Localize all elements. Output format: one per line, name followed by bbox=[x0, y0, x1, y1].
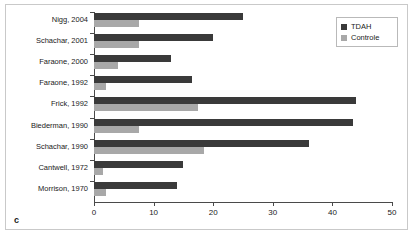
x-tick-mark bbox=[154, 202, 155, 206]
bar-row: Frick, 1992 bbox=[94, 96, 392, 117]
figure-panel-c: 01020304050 Nigg, 2004Schachar, 2001Fara… bbox=[0, 0, 413, 235]
category-label: Frick, 1992 bbox=[51, 98, 88, 110]
category-label: Faraone, 1992 bbox=[39, 77, 88, 89]
x-tick-label: 10 bbox=[149, 208, 158, 217]
bar-row: Faraone, 2000 bbox=[94, 54, 392, 75]
x-axis-line bbox=[94, 202, 392, 203]
bar-controle bbox=[94, 83, 106, 90]
bar-tdah bbox=[94, 13, 243, 20]
category-label: Morrison, 1970 bbox=[38, 183, 88, 195]
bar-row: Morrison, 1970 bbox=[94, 181, 392, 202]
x-tick-label: 0 bbox=[92, 208, 96, 217]
bar-controle bbox=[94, 189, 106, 196]
panel-label: c bbox=[14, 215, 19, 225]
bar-row: Faraone, 1992 bbox=[94, 75, 392, 96]
legend-swatch-tdah bbox=[341, 24, 347, 30]
bar-row: Cantwell, 1972 bbox=[94, 160, 392, 181]
bar-controle bbox=[94, 126, 139, 133]
bar-controle bbox=[94, 20, 139, 27]
x-tick-label: 20 bbox=[209, 208, 218, 217]
bar-tdah bbox=[94, 55, 171, 62]
category-label: Faraone, 2000 bbox=[39, 56, 88, 68]
legend-label-controle: Controle bbox=[351, 33, 379, 42]
x-tick-label: 50 bbox=[388, 208, 397, 217]
x-tick-mark bbox=[94, 202, 95, 206]
category-label: Nigg, 2004 bbox=[52, 14, 88, 26]
bar-tdah bbox=[94, 76, 192, 83]
bar-tdah bbox=[94, 34, 213, 41]
x-tick-label: 30 bbox=[268, 208, 277, 217]
bar-tdah bbox=[94, 182, 177, 189]
legend-item-tdah: TDAH bbox=[341, 21, 393, 32]
legend-label-tdah: TDAH bbox=[351, 22, 371, 31]
x-tick-mark bbox=[332, 202, 333, 206]
legend-swatch-controle bbox=[341, 35, 347, 41]
bar-tdah bbox=[94, 161, 183, 168]
chart-legend: TDAH Controle bbox=[336, 17, 398, 47]
bar-controle bbox=[94, 168, 103, 175]
bar-row: Biederman, 1990 bbox=[94, 118, 392, 139]
bar-controle bbox=[94, 62, 118, 69]
category-label: Schachar, 1990 bbox=[36, 141, 88, 153]
category-label: Cantwell, 1972 bbox=[38, 162, 88, 174]
bar-tdah bbox=[94, 97, 356, 104]
bar-tdah bbox=[94, 119, 353, 126]
x-tick-label: 40 bbox=[328, 208, 337, 217]
bar-row: Schachar, 1990 bbox=[94, 139, 392, 160]
category-label: Schachar, 2001 bbox=[36, 35, 88, 47]
bar-controle bbox=[94, 41, 139, 48]
x-tick-mark bbox=[392, 202, 393, 206]
bar-tdah bbox=[94, 140, 309, 147]
bar-controle bbox=[94, 104, 198, 111]
x-tick-mark bbox=[213, 202, 214, 206]
x-tick-mark bbox=[273, 202, 274, 206]
bar-controle bbox=[94, 147, 204, 154]
legend-item-controle: Controle bbox=[341, 32, 393, 43]
category-label: Biederman, 1990 bbox=[31, 120, 88, 132]
